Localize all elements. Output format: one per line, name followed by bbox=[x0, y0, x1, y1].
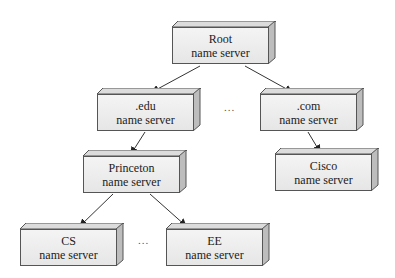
ellipsis-bottom: ... bbox=[138, 234, 149, 246]
com-name-server: .comname server bbox=[260, 88, 358, 125]
princeton-name-server: Princetonname server bbox=[83, 150, 181, 187]
node-subtitle: name server bbox=[116, 113, 174, 127]
box-side-face bbox=[356, 88, 364, 131]
node-title: Cisco bbox=[310, 159, 337, 173]
node-subtitle: name server bbox=[102, 175, 160, 189]
node-title: .com bbox=[297, 99, 321, 113]
cs-name-server: CSname server bbox=[20, 223, 118, 260]
box-side-face bbox=[193, 88, 201, 131]
box-side-face bbox=[371, 148, 379, 191]
node-subtitle: name server bbox=[185, 248, 243, 262]
box-side-face bbox=[116, 223, 124, 266]
edge-princeton-cs bbox=[80, 194, 113, 226]
ellipsis-top: ... bbox=[224, 101, 235, 113]
root-name-server: Rootname server bbox=[172, 21, 270, 58]
node-subtitle: name server bbox=[279, 113, 337, 127]
node-title: EE bbox=[207, 234, 222, 248]
edu-name-server: .eduname server bbox=[97, 88, 195, 125]
cisco-name-server: Cisconame server bbox=[275, 148, 373, 185]
node-subtitle: name server bbox=[294, 173, 352, 187]
node-title: Princeton bbox=[109, 161, 155, 175]
edge-princeton-ee bbox=[150, 194, 186, 226]
box-side-face bbox=[179, 150, 187, 193]
box-side-face bbox=[262, 223, 270, 266]
node-title: .edu bbox=[135, 99, 155, 113]
box-side-face bbox=[268, 21, 276, 64]
node-title: CS bbox=[61, 234, 76, 248]
ee-name-server: EEname server bbox=[166, 223, 264, 260]
node-subtitle: name server bbox=[191, 46, 249, 60]
node-title: Root bbox=[209, 32, 232, 46]
node-subtitle: name server bbox=[39, 248, 97, 262]
